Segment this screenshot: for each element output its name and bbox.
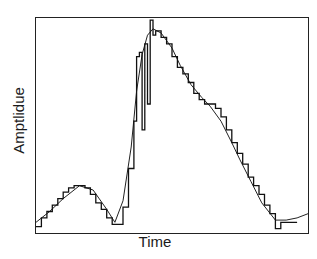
quantized-trace	[36, 20, 297, 229]
x-axis-label: Time	[100, 233, 210, 250]
smooth-curve	[36, 29, 308, 223]
chart-plot	[0, 0, 317, 259]
y-axis-label: Amptlidue	[10, 81, 27, 161]
